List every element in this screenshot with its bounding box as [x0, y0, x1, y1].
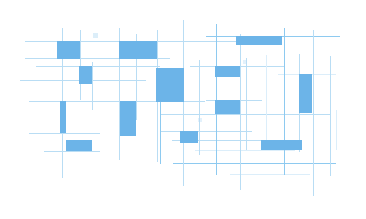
blue-block: [119, 41, 157, 59]
blue-block: [79, 66, 92, 84]
blue-block: [215, 66, 240, 77]
blue-block: [120, 101, 136, 136]
blue-block: [215, 100, 240, 114]
blue-block: [66, 140, 92, 151]
artwork-canvas: Abstract blue grid composition Decorativ…: [0, 0, 366, 219]
blue-block: [261, 140, 302, 150]
blue-block: [60, 101, 66, 133]
blue-block: [156, 68, 184, 102]
blue-block: [198, 118, 202, 122]
blue-block: [299, 74, 312, 113]
blue-block: [236, 36, 282, 45]
blue-block: [243, 60, 247, 64]
blue-block: [180, 131, 198, 143]
blue-block: [57, 41, 80, 59]
abstract-grid-graphic: [0, 0, 366, 219]
blue-block: [93, 33, 98, 38]
